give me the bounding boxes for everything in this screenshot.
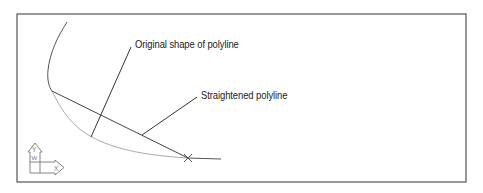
label-original-shape: Original shape of polyline [135, 38, 239, 50]
leader-original [91, 47, 131, 137]
ucs-w-label: W [32, 155, 38, 161]
polyline-upper-segment [48, 22, 67, 91]
leader-straightened [142, 97, 197, 135]
ucs-x-label: X [54, 165, 59, 172]
ucs-y-label: Y [32, 146, 37, 153]
polyline-tail-segment [188, 158, 221, 159]
label-straightened-polyline: Straightened polyline [201, 89, 287, 101]
